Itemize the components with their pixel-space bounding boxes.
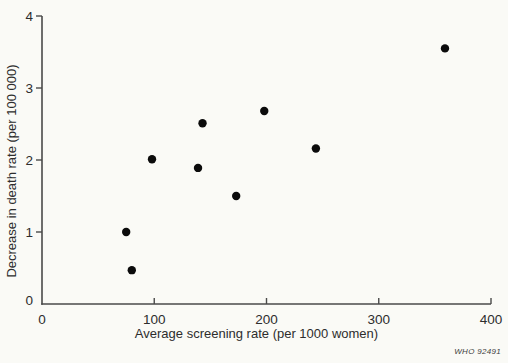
data-point: [128, 266, 136, 274]
data-point: [312, 144, 320, 152]
data-point: [260, 107, 268, 115]
data-point: [122, 228, 130, 236]
figure-watermark: WHO 92491: [454, 347, 501, 356]
y-tick-label: 4: [25, 9, 33, 24]
y-tick-label: 3: [25, 81, 33, 96]
scatter-figure: 010020030040001234Average screening rate…: [0, 0, 508, 363]
y-axis-title: Decrease in death rate (per 100 000): [4, 64, 19, 277]
y-tick-label: 0: [25, 293, 33, 308]
x-tick-label: 200: [255, 312, 278, 327]
y-tick-label: 2: [25, 153, 33, 168]
x-tick-label: 300: [367, 312, 390, 327]
data-point: [441, 44, 449, 52]
x-tick-label: 400: [480, 312, 503, 327]
y-tick-label: 1: [25, 225, 33, 240]
data-point: [198, 119, 206, 127]
x-tick-label: 0: [38, 312, 46, 327]
scatter-chart: 010020030040001234Average screening rate…: [0, 0, 508, 363]
data-point: [148, 155, 156, 163]
data-point: [232, 192, 240, 200]
x-axis-title: Average screening rate (per 1000 women): [135, 326, 378, 341]
data-point: [194, 164, 202, 172]
x-tick-label: 100: [143, 312, 166, 327]
